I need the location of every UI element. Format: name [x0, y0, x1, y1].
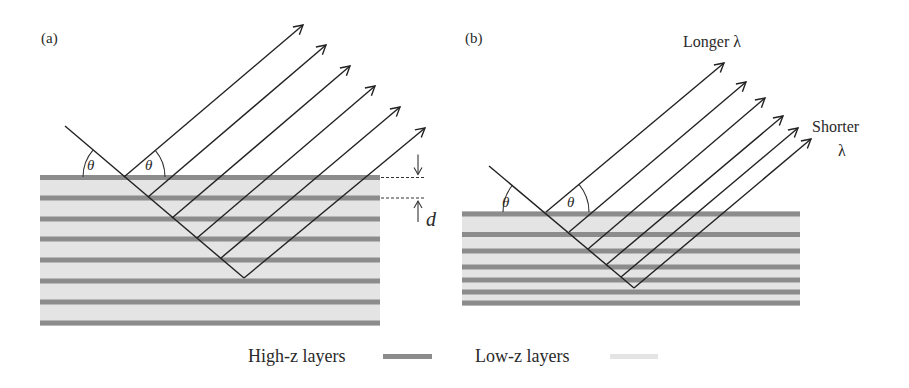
high-z-layer — [40, 258, 380, 263]
legend-high-z-swatch — [383, 354, 432, 359]
theta-arc-reflected — [155, 150, 165, 177]
high-z-layer — [462, 232, 800, 237]
panel-b-theta-reflected: θ — [567, 194, 575, 210]
panel-a-label: (a) — [41, 30, 58, 47]
panel-a-theta-arcs — [83, 150, 165, 177]
panel-a-theta-incident: θ — [87, 157, 95, 173]
panel-a-layer-stack — [40, 175, 380, 326]
high-z-layer — [40, 321, 380, 326]
high-z-layer — [40, 279, 380, 284]
high-z-layer — [40, 217, 380, 222]
reflected-ray — [124, 25, 303, 177]
reflected-ray — [148, 45, 326, 197]
shorter-wavelength-lambda: λ — [838, 142, 846, 159]
panel-a-uniform-multilayer: (a) θ θ d — [40, 25, 437, 326]
high-z-layer — [40, 175, 380, 180]
legend-high-z-label: High-z layers — [248, 346, 345, 366]
high-z-layer — [462, 290, 800, 295]
shorter-wavelength-label: Shorter — [812, 118, 860, 135]
panel-b-graded-multilayer: (b) θ θ Longer λ Shorter λ — [462, 30, 860, 306]
high-z-layer — [40, 196, 380, 201]
high-z-layer — [40, 300, 380, 305]
layer-spacing-marker — [381, 155, 425, 223]
panel-a-theta-reflected: θ — [145, 157, 153, 173]
high-z-layer — [462, 249, 800, 254]
bragg-multilayer-figure: (a) θ θ d (b) θ θ Longer λ Shorter λ Hig… — [0, 0, 909, 388]
panel-b-layer-stack — [462, 211, 800, 306]
high-z-layer — [462, 278, 800, 283]
reflected-ray — [546, 63, 724, 212]
panel-b-label: (b) — [465, 30, 483, 47]
legend: High-z layers Low-z layers — [248, 346, 658, 366]
theta-arc-reflected — [579, 184, 589, 212]
reflected-ray — [569, 82, 746, 232]
high-z-layer — [40, 237, 380, 242]
spacing-d-label: d — [426, 208, 437, 230]
legend-low-z-swatch — [610, 354, 658, 359]
legend-low-z-label: Low-z layers — [475, 346, 569, 366]
high-z-layer — [462, 301, 800, 306]
panel-b-theta-incident: θ — [502, 194, 510, 210]
longer-wavelength-label: Longer λ — [683, 33, 741, 51]
